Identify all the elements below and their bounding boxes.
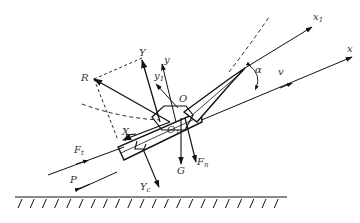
- label-X: X: [122, 127, 129, 137]
- label-O: O: [179, 94, 187, 104]
- ground-hatch: [15, 197, 287, 208]
- label-G: G: [177, 166, 185, 176]
- label-y: y: [164, 55, 170, 65]
- label-x: x: [347, 44, 353, 54]
- label-Fn: Fn: [197, 157, 208, 169]
- label-y1: y1: [154, 71, 164, 83]
- label-v: v: [278, 67, 284, 77]
- force-parallelogram: [94, 58, 142, 140]
- force-diagram: [0, 0, 360, 223]
- label-P: P: [70, 175, 77, 185]
- label-R: R: [81, 73, 89, 83]
- label-Y: Y: [139, 48, 146, 58]
- label-x1: x1: [313, 12, 323, 24]
- x1-axis: [245, 27, 312, 68]
- label-alpha: α: [255, 65, 262, 75]
- y1-axis: [156, 84, 178, 108]
- label-Ft: Ft: [74, 145, 84, 157]
- label-Yc: Yc: [140, 182, 151, 194]
- label-O1: O1: [167, 125, 180, 137]
